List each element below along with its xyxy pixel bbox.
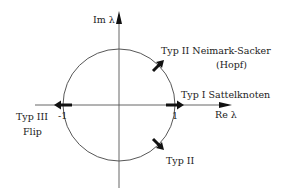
- tick-label-minus-one: -1: [58, 110, 67, 121]
- unit-circle-diagram: Im λ Re λ -1 1 Typ II Neimark-Sacker (Ho…: [0, 0, 288, 191]
- imaginary-axis-label: Im λ: [93, 14, 115, 25]
- neimark-sacker-label: Typ II Neimark-Sacker: [161, 45, 271, 56]
- tick-label-one: 1: [172, 110, 178, 121]
- imaginary-axis-arrowhead-icon: [116, 11, 122, 24]
- neimark-sacker-lower-label: Typ II: [166, 155, 194, 166]
- saddle-node-label: Typ I Sattelknoten: [181, 89, 270, 100]
- real-axis-arrowhead-icon: [219, 102, 232, 108]
- flip-label: Flip: [23, 126, 42, 137]
- real-axis-label: Re λ: [215, 109, 237, 120]
- flip-type-label: Typ III: [16, 111, 48, 122]
- hopf-label: (Hopf): [216, 59, 247, 70]
